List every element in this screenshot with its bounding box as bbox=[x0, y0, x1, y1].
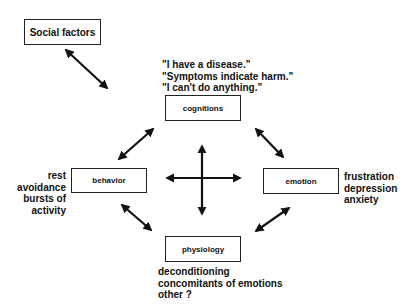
node-emotion: emotion bbox=[263, 168, 339, 194]
physiology-annotation: deconditioning concomitants of emotions … bbox=[158, 266, 282, 301]
emotion-annotation: frustration depression anxiety bbox=[344, 171, 397, 206]
emotion-item-1: frustration bbox=[344, 171, 397, 183]
node-emotion-label: emotion bbox=[285, 177, 316, 186]
behavior-item-1: rest bbox=[0, 170, 66, 182]
behavior-item-4: activity bbox=[0, 205, 66, 217]
cognitions-annotation: "I have a disease." "Symptoms indicate h… bbox=[162, 59, 293, 94]
arrow-behavior-physiology bbox=[122, 205, 151, 230]
arrow-cognitions-emotion bbox=[256, 129, 283, 157]
cognitions-quote-2: "Symptoms indicate harm." bbox=[162, 71, 293, 83]
emotion-item-3: anxiety bbox=[344, 194, 397, 206]
arrow-social-cognitions bbox=[66, 50, 107, 88]
physiology-item-1: deconditioning bbox=[158, 266, 282, 278]
node-physiology: physiology bbox=[165, 236, 241, 262]
physiology-item-2: concomitants of emotions bbox=[158, 278, 282, 290]
physiology-item-3: other ? bbox=[158, 289, 282, 301]
cognitions-quote-1: "I have a disease." bbox=[162, 59, 293, 71]
node-behavior: behavior bbox=[71, 168, 147, 193]
arrow-cognitions-behavior bbox=[119, 129, 153, 159]
emotion-item-2: depression bbox=[344, 183, 397, 195]
arrow-emotion-physiology bbox=[256, 208, 289, 231]
node-behavior-label: behavior bbox=[92, 176, 125, 185]
cognitions-quote-3: "I can't do anything." bbox=[162, 82, 293, 94]
node-cognitions: cognitions bbox=[165, 95, 241, 121]
node-cognitions-label: cognitions bbox=[183, 104, 223, 113]
behavior-item-2: avoidance bbox=[0, 182, 66, 194]
behavior-item-3: bursts of bbox=[0, 193, 66, 205]
node-physiology-label: physiology bbox=[182, 245, 224, 254]
node-social-factors: Social factors bbox=[24, 19, 101, 45]
node-social-factors-label: Social factors bbox=[30, 27, 96, 38]
behavior-annotation: rest avoidance bursts of activity bbox=[0, 170, 66, 216]
